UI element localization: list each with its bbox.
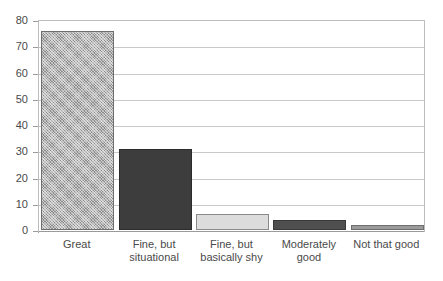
y-tick-mark	[33, 152, 38, 153]
y-tick-label: 50	[4, 94, 28, 105]
x-axis-label: Moderately good	[270, 238, 347, 264]
y-tick-label: 20	[4, 173, 28, 184]
y-tick-label: 0	[4, 225, 28, 236]
y-tick-mark	[33, 47, 38, 48]
bar-chart: 80 70 60 50 40 30 20 10 0 GreatFine, but…	[0, 0, 443, 281]
y-tick-mark	[33, 21, 38, 22]
bar[interactable]	[41, 31, 114, 231]
y-tick-mark	[33, 74, 38, 75]
y-tick-label: 60	[4, 68, 28, 79]
y-tick-label: 80	[4, 15, 28, 26]
x-axis-label: Fine, but situational	[115, 238, 192, 264]
y-tick-label: 30	[4, 146, 28, 157]
x-axis-label: Fine, but basically shy	[193, 238, 270, 264]
y-tick-mark	[33, 179, 38, 180]
bar[interactable]	[196, 214, 269, 230]
y-tick-mark	[33, 231, 38, 232]
plot-area	[38, 20, 425, 232]
y-tick-label: 70	[4, 41, 28, 52]
y-tick-mark	[33, 100, 38, 101]
y-tick-mark	[33, 205, 38, 206]
y-tick-label: 10	[4, 199, 28, 210]
x-axis-label: Great	[38, 238, 115, 251]
gridline	[39, 231, 424, 232]
bar[interactable]	[351, 225, 424, 230]
bar[interactable]	[273, 220, 346, 231]
y-tick-mark	[33, 126, 38, 127]
y-tick-label: 40	[4, 120, 28, 131]
bar[interactable]	[119, 149, 192, 230]
bars-layer	[39, 21, 424, 231]
x-axis-label: Not that good	[348, 238, 425, 251]
